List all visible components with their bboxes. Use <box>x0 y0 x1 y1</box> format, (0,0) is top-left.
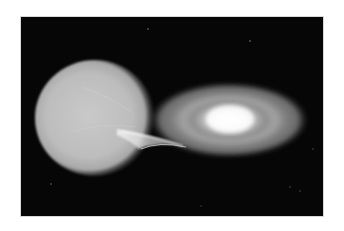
binary-star-image: Binary star system: a large glowing star… <box>21 17 323 216</box>
accretion-disk <box>149 82 309 158</box>
binary-star-illustration <box>21 17 323 216</box>
donor-star <box>35 60 155 176</box>
